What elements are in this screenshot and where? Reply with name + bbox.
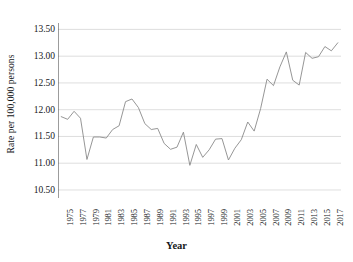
- x-axis-tick-label: 2001: [232, 209, 242, 226]
- x-axis-tick-label: 2013: [309, 209, 319, 226]
- x-axis-tick-label: 1987: [142, 209, 152, 226]
- y-axis-tick-labels: 13.5013.0012.5012.0011.5011.0010.50: [20, 0, 55, 262]
- plot-area: [58, 23, 341, 198]
- y-axis-title: Rate per 100,000 persons: [6, 55, 16, 154]
- x-axis-tick-label: 1977: [78, 209, 88, 226]
- y-axis-tick-label: 13.00: [20, 51, 55, 61]
- y-axis-tick-label: 10.50: [20, 185, 55, 195]
- y-axis-tick-label: 12.50: [20, 78, 55, 88]
- x-axis-tick-label: 2009: [283, 209, 293, 226]
- y-axis-tick-label: 11.00: [20, 158, 55, 168]
- x-axis-tick-label: 1997: [206, 209, 216, 226]
- y-axis-tick-label: 12.00: [20, 105, 55, 115]
- chart-figure: Rate per 100,000 persons 13.5013.0012.50…: [0, 0, 353, 262]
- x-axis-tick-label: 2017: [335, 209, 345, 226]
- x-axis-tick-label: 1983: [116, 209, 126, 226]
- x-axis-tick-label: 1979: [91, 209, 101, 226]
- data-series-line: [61, 43, 338, 166]
- x-axis-title: Year: [0, 240, 353, 251]
- x-axis-tick-label: 1989: [155, 209, 165, 226]
- x-axis-tick-label: 1995: [193, 209, 203, 226]
- x-axis-tick-label: 1981: [103, 209, 113, 226]
- y-axis-title-container: Rate per 100,000 persons: [0, 0, 22, 208]
- x-axis-tick-label: 1993: [181, 209, 191, 226]
- x-axis-tick-label: 2003: [245, 209, 255, 226]
- x-axis-tick-label: 2015: [322, 209, 332, 226]
- x-axis-tick-label: 1975: [65, 209, 75, 226]
- x-axis-tick-label: 2005: [258, 209, 268, 226]
- gridlines: [58, 29, 341, 190]
- x-axis-tick-label: 1985: [129, 209, 139, 226]
- x-axis-tick-label: 1991: [168, 209, 178, 226]
- x-axis-tick-label: 1999: [219, 209, 229, 226]
- x-axis-tick-labels: 1975197719791981198319851987198919911993…: [58, 209, 341, 239]
- axis-spines: [58, 23, 341, 198]
- y-axis-tick-label: 13.50: [20, 24, 55, 34]
- x-axis-tick-label: 2007: [271, 209, 281, 226]
- chart-canvas: [58, 23, 341, 198]
- x-axis-tick-label: 2011: [296, 209, 306, 225]
- y-axis-tick-label: 11.50: [20, 131, 55, 141]
